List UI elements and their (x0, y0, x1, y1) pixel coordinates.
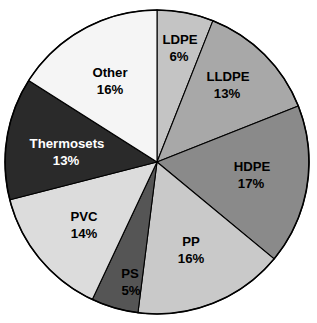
slice-value-ps: 5% (121, 283, 140, 298)
slice-value-thermosets: 13% (53, 153, 80, 168)
slice-label-pp: PP (182, 234, 200, 249)
slice-label-ps: PS (121, 266, 139, 281)
slice-label-lldpe: LLDPE (206, 69, 249, 84)
slice-label-ldpe: LDPE (162, 32, 197, 47)
slice-label-pvc: PVC (70, 209, 98, 224)
pie-chart-container: LDPE6%LLDPE13%HDPE17%PP16%PS5%PVC14%Ther… (0, 0, 317, 323)
slice-label-hdpe: HDPE (234, 159, 271, 174)
slice-value-ldpe: 6% (169, 49, 188, 64)
slice-value-hdpe: 17% (238, 176, 265, 191)
slice-label-thermosets: Thermosets (30, 136, 105, 151)
slice-value-other: 16% (97, 82, 124, 97)
slice-value-pp: 16% (178, 251, 205, 266)
slice-value-lldpe: 13% (214, 86, 241, 101)
pie-chart-svg: LDPE6%LLDPE13%HDPE17%PP16%PS5%PVC14%Ther… (0, 0, 317, 323)
slice-value-pvc: 14% (71, 226, 98, 241)
slice-label-other: Other (92, 65, 127, 80)
